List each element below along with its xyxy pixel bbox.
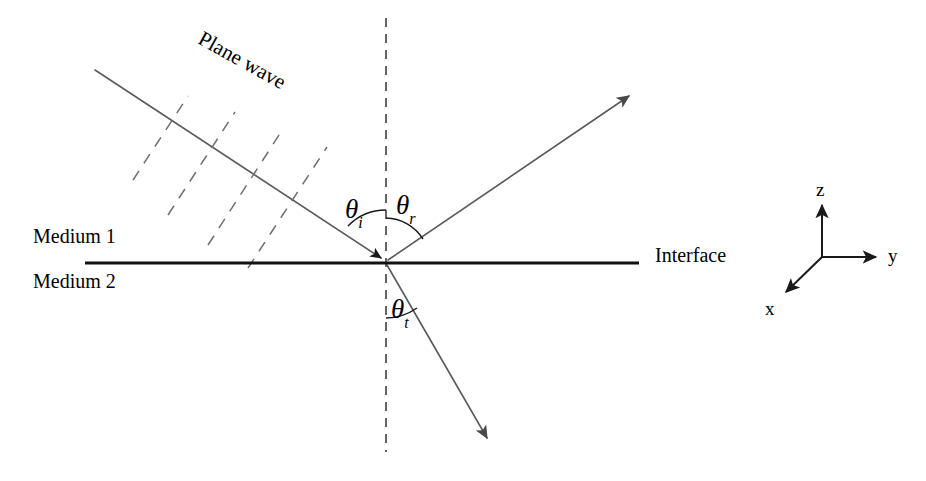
wavefront-dash-3 [208, 132, 281, 245]
wavefront-dash-1 [133, 96, 188, 180]
incident-angle-symbol: θ [345, 194, 358, 224]
reflected-ray [388, 96, 629, 260]
incident-ray [95, 70, 381, 258]
reflected-angle-symbol: θ [396, 190, 409, 220]
transmitted-angle-symbol: θ [391, 294, 404, 324]
reflected-angle-label: θr [396, 192, 416, 223]
medium-2-label: Medium 2 [33, 271, 116, 291]
reflected-angle-subscript: r [409, 210, 415, 227]
interface-label: Interface [655, 245, 726, 265]
wave-interface-diagram [0, 0, 926, 481]
transmitted-ray [387, 265, 487, 438]
figure-canvas: Plane wave Medium 1 Medium 2 Interface θ… [0, 0, 926, 481]
incident-angle-subscript: i [358, 214, 362, 231]
x-axis-label: x [765, 299, 775, 318]
incident-angle-label: θi [345, 196, 363, 227]
y-axis-label: y [888, 246, 898, 265]
x-axis-line [786, 257, 822, 292]
z-axis-label: z [816, 180, 824, 199]
wavefront-dash-2 [168, 112, 235, 215]
transmitted-angle-subscript: t [404, 314, 408, 331]
medium-1-label: Medium 1 [33, 226, 116, 246]
wavefront-dash-4 [248, 147, 327, 268]
transmitted-angle-label: θt [391, 296, 409, 327]
